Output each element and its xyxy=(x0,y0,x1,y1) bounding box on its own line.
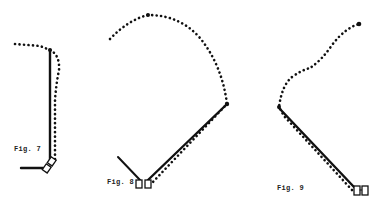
fig9-base-box-2 xyxy=(362,186,368,195)
fig9-end-joint xyxy=(357,22,362,27)
diagram-canvas xyxy=(0,0,383,207)
fig8-base-box-2 xyxy=(145,180,151,188)
fig8-dotted-path xyxy=(110,15,227,183)
fig8-apex-joint xyxy=(146,13,150,17)
fig9-base-box-1 xyxy=(354,186,360,195)
figure-8 xyxy=(110,13,229,188)
fig8-thin-arm xyxy=(118,157,140,180)
fig8-elbow-joint xyxy=(225,102,229,106)
fig9-label: Fig. 9 xyxy=(277,184,304,192)
fig9-solid-link xyxy=(279,108,354,187)
figure-7 xyxy=(15,44,59,173)
fig7-label: Fig. 7 xyxy=(14,145,41,153)
fig7-dotted-path xyxy=(15,44,59,160)
fig9-dotted-path xyxy=(279,24,359,190)
fig7-base-box-1 xyxy=(42,164,51,173)
fig8-base-box-1 xyxy=(136,180,142,188)
figure-9 xyxy=(277,22,368,195)
fig9-elbow-joint xyxy=(277,105,281,109)
fig7-top-joint xyxy=(48,48,52,52)
fig8-label: Fig. 8 xyxy=(107,178,134,186)
